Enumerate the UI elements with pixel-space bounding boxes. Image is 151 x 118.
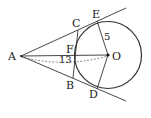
- label-d: D: [89, 88, 98, 101]
- label-radius-5: 5: [104, 31, 110, 42]
- radius-od: [97, 55, 108, 89]
- point-a: [20, 55, 22, 57]
- center-point-o: [106, 53, 109, 56]
- label-distance-13: 13: [59, 54, 72, 65]
- label-a: A: [7, 50, 17, 63]
- segment-cb: [73, 30, 78, 78]
- label-b: B: [66, 79, 74, 92]
- label-c: C: [72, 17, 80, 30]
- geometry-diagram: A C E F O B D 5 13: [0, 0, 151, 118]
- label-o: O: [112, 50, 121, 63]
- label-e: E: [92, 8, 100, 21]
